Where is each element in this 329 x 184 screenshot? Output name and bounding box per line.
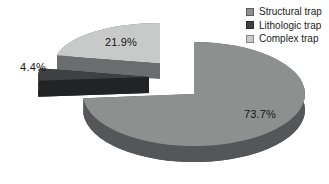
legend-item-complex-trap: Complex trap [246, 32, 322, 46]
legend-item-structural-trap: Structural trap [246, 5, 322, 19]
legend-swatch-structural-trap [246, 8, 254, 16]
legend-swatch-complex-trap [246, 35, 254, 43]
legend-swatch-lithologic-trap [246, 21, 254, 29]
legend-label-structural-trap: Structural trap [259, 6, 322, 17]
legend-item-lithologic-trap: Lithologic trap [246, 19, 322, 33]
data-label-structural-trap: 73.7% [244, 108, 276, 120]
legend: Structural trap Lithologic trap Complex … [246, 5, 322, 46]
chart-canvas: 73.7% 4.4% 21.9% Structural trap Litholo… [0, 0, 329, 184]
data-label-lithologic-trap: 4.4% [20, 61, 46, 73]
legend-label-lithologic-trap: Lithologic trap [259, 20, 321, 31]
legend-label-complex-trap: Complex trap [259, 33, 318, 44]
data-label-complex-trap: 21.9% [105, 36, 137, 48]
